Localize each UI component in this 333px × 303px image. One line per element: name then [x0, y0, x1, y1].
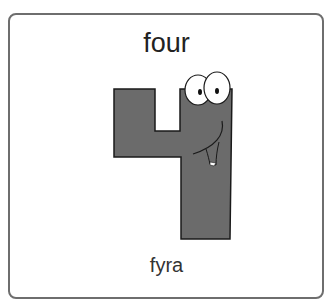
translation-label: fyra: [0, 254, 333, 277]
eyes-icon: [185, 72, 230, 105]
